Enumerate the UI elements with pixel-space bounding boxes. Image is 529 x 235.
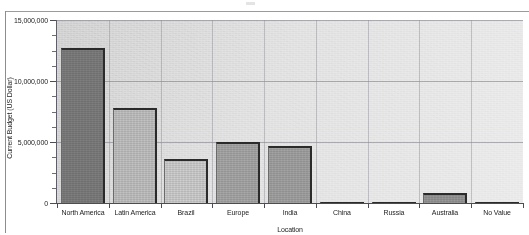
y-tick-major — [50, 81, 56, 82]
y-tick-minor — [52, 173, 56, 174]
y-tick-minor — [52, 66, 56, 67]
bar-brazil — [164, 159, 208, 203]
y-tick-minor — [52, 127, 56, 128]
y-tick-major — [50, 20, 56, 21]
y-tick-major — [50, 203, 56, 204]
y-tick-label: 10,000,000 — [14, 78, 48, 85]
gridline-vertical — [368, 20, 369, 203]
x-tick — [264, 204, 265, 208]
bar-india — [268, 146, 312, 203]
bar-australia — [423, 193, 467, 203]
x-category-label: No Value — [483, 209, 510, 216]
bar-north-america — [61, 48, 105, 203]
x-tick — [212, 204, 213, 208]
x-tick — [368, 204, 369, 208]
gridline-vertical — [161, 20, 162, 203]
gridline-vertical — [419, 20, 420, 203]
gridline-horizontal — [57, 81, 523, 82]
x-axis-line — [56, 203, 524, 204]
x-category-label: Brazil — [178, 209, 195, 216]
gridline-vertical — [471, 20, 472, 203]
bar-latin-america — [113, 108, 157, 203]
gridline-vertical — [212, 20, 213, 203]
x-tick — [161, 204, 162, 208]
x-tick — [523, 204, 524, 208]
bar-europe — [216, 142, 260, 203]
x-category-label: Europe — [227, 209, 249, 216]
x-tick — [57, 204, 58, 208]
bar-texture — [62, 50, 103, 203]
gridline-horizontal — [57, 20, 523, 21]
y-axis-title: Current Budget (US Dollar) — [6, 77, 13, 158]
scan-artifact-speck — [246, 2, 255, 5]
bar-texture — [165, 161, 206, 203]
y-tick-label: 15,000,000 — [14, 17, 48, 24]
bar-texture — [424, 195, 465, 203]
y-tick-major — [50, 142, 56, 143]
x-axis-title: Location — [277, 226, 303, 233]
x-category-label: Australia — [432, 209, 458, 216]
bar-texture — [217, 144, 258, 203]
x-category-label: China — [333, 209, 351, 216]
x-category-label: India — [283, 209, 298, 216]
x-tick — [471, 204, 472, 208]
y-tick-minor — [52, 188, 56, 189]
x-category-label: Russia — [384, 209, 405, 216]
y-tick-label: 0 — [44, 200, 48, 207]
x-tick — [316, 204, 317, 208]
y-tick-minor — [52, 157, 56, 158]
x-category-label: North America — [61, 209, 104, 216]
gridline-vertical — [316, 20, 317, 203]
y-tick-label: 5,000,000 — [18, 139, 48, 146]
bar-texture — [269, 148, 310, 203]
x-tick — [109, 204, 110, 208]
gridline-vertical — [264, 20, 265, 203]
plot-area — [57, 20, 523, 203]
y-tick-minor — [52, 35, 56, 36]
y-axis-line — [56, 20, 57, 204]
x-category-label: Latin America — [114, 209, 155, 216]
figure-frame-top — [5, 11, 529, 12]
y-tick-minor — [52, 112, 56, 113]
gridline-vertical — [109, 20, 110, 203]
chart-figure: 05,000,00010,000,00015,000,000 North Ame… — [0, 0, 529, 235]
bar-texture — [114, 110, 155, 203]
y-tick-minor — [52, 96, 56, 97]
y-tick-minor — [52, 51, 56, 52]
x-tick — [419, 204, 420, 208]
